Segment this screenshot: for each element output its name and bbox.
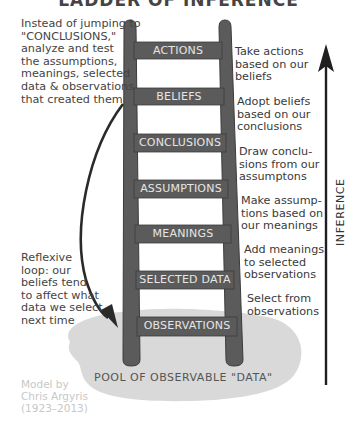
rung-label-meanings: MEANINGS <box>135 227 231 240</box>
rung-label-actions: ACTIONS <box>134 44 222 57</box>
inference-axis-label: INFERENCE <box>334 178 347 246</box>
analyze-note: Instead of jumping to "CONCLUSIONS," ana… <box>21 18 141 106</box>
diagram-title: LADDER OF INFERENCE <box>0 0 357 10</box>
rung-label-observations: OBSERVATIONS <box>137 319 237 332</box>
rung-label-assumptions: ASSUMPTIONS <box>130 182 232 195</box>
rung-label-beliefs: BELIEFS <box>134 90 224 103</box>
description-beliefs: Adopt beliefs based on our conclusions <box>237 96 310 134</box>
pool-label: POOL OF OBSERVABLE "DATA" <box>94 371 272 384</box>
reflexive-loop-note: Reflexive loop: our beliefs tend to affe… <box>21 252 103 328</box>
credit-note: Model by Chris Argyris (1923–2013) <box>21 378 88 414</box>
rung-label-conclusions: CONCLUSIONS <box>130 136 230 149</box>
description-assumptions: Make assump- tions based on our meanings <box>241 195 323 233</box>
rung-label-selected-data: SELECTED DATA <box>130 273 240 286</box>
description-conclusions: Draw conclu- sions from our assumptons <box>239 146 319 184</box>
description-meanings: Add meanings to selected observations <box>244 244 324 282</box>
description-selected-data: Select from observations <box>247 293 319 318</box>
description-actions: Take actions based on our beliefs <box>235 46 308 84</box>
